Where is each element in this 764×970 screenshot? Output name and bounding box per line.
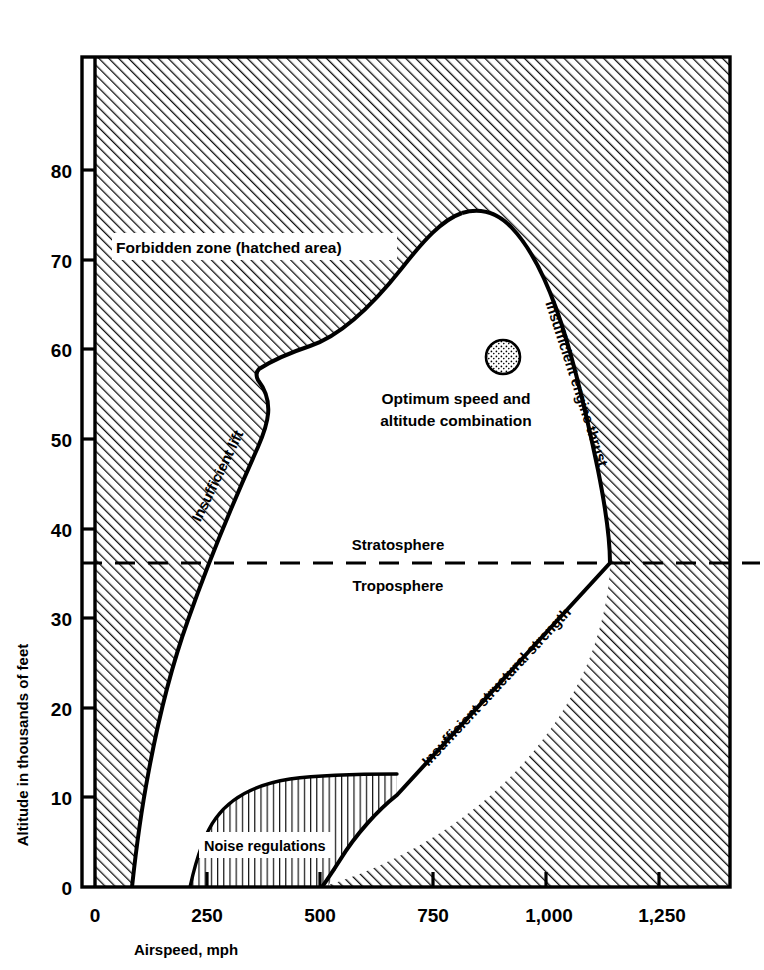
y-axis-tick-labels: 80 70 60 50 40 30 20 10 0	[51, 161, 72, 899]
y-tick-marks	[82, 170, 95, 797]
chart-canvas: 80 70 60 50 40 30 20 10 0 0 250 500 750 …	[0, 0, 764, 970]
stratosphere-label: Stratosphere	[352, 536, 445, 553]
x-axis-title-group: Airspeed, mph	[134, 941, 238, 958]
x-tick-label-1000: 1,000	[525, 905, 573, 926]
y-tick-label-70: 70	[51, 251, 72, 272]
y-tick-label-40: 40	[51, 520, 72, 541]
y-tick-label-20: 20	[51, 699, 72, 720]
x-axis-tick-labels: 0 250 500 750 1,000 1,250	[90, 905, 686, 926]
y-tick-label-30: 30	[51, 609, 72, 630]
y-tick-label-10: 10	[51, 788, 72, 809]
x-tick-label-250: 250	[191, 905, 223, 926]
optimum-label-line2: altitude combination	[380, 412, 532, 429]
troposphere-label: Troposphere	[353, 577, 444, 594]
y-tick-label-0: 0	[61, 878, 72, 899]
x-tick-label-500: 500	[304, 905, 336, 926]
forbidden-zone-label: Forbidden zone (hatched area)	[116, 239, 342, 256]
forbidden-zone-region	[95, 57, 730, 887]
optimum-label-line1: Optimum speed and	[382, 390, 531, 407]
y-tick-label-60: 60	[51, 340, 72, 361]
noise-regulations-label-group: Noise regulations	[199, 832, 332, 858]
y-axis-title-group: Altitude in thousands of feet	[14, 644, 31, 847]
forbidden-zone-label-group: Forbidden zone (hatched area)	[112, 233, 397, 260]
y-tick-label-50: 50	[51, 430, 72, 451]
optimum-point-marker	[486, 340, 520, 374]
flight-envelope-chart: 80 70 60 50 40 30 20 10 0 0 250 500 750 …	[0, 0, 764, 970]
y-axis-title: Altitude in thousands of feet	[14, 644, 31, 847]
noise-regulations-label: Noise regulations	[204, 838, 326, 854]
y-tick-label-80: 80	[51, 161, 72, 182]
x-tick-label-1250: 1,250	[638, 905, 686, 926]
x-tick-label-750: 750	[417, 905, 449, 926]
x-axis-title: Airspeed, mph	[134, 941, 238, 958]
x-tick-label-0: 0	[90, 905, 101, 926]
